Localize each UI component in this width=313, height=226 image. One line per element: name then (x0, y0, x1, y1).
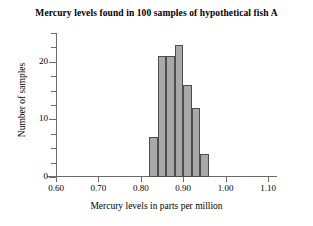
y-axis-tick (49, 119, 56, 120)
y-axis-tick (49, 62, 56, 63)
chart-title: Mercury levels found in 100 samples of h… (0, 8, 313, 18)
x-axis-tick (98, 177, 99, 182)
x-axis-tick-label: 0.70 (78, 183, 118, 193)
x-axis-tick (183, 177, 184, 182)
x-axis-tick (268, 177, 269, 182)
x-axis-tick-label: 1.10 (248, 183, 288, 193)
histogram-bar (183, 85, 191, 177)
x-axis-tick-label: 0.90 (163, 183, 203, 193)
x-axis-label: Mercury levels in parts per million (0, 201, 313, 211)
histogram-bars (56, 33, 268, 177)
y-axis-tick (49, 177, 56, 178)
y-axis-tick-label: 20 (20, 56, 48, 66)
x-axis-tick-label: 1.00 (206, 183, 246, 193)
y-axis-tick-label: 10 (20, 113, 48, 123)
x-axis-tick (226, 177, 227, 182)
x-axis-tick-label: 0.80 (121, 183, 161, 193)
x-axis-tick (56, 177, 57, 182)
histogram-bar (149, 137, 157, 177)
histogram-figure: Mercury levels found in 100 samples of h… (0, 0, 313, 226)
histogram-bar (175, 45, 183, 177)
x-axis-tick (141, 177, 142, 182)
y-axis-tick-label: 0 (20, 171, 48, 181)
histogram-bar (166, 56, 174, 177)
x-axis-tick-label: 0.60 (36, 183, 76, 193)
histogram-bar (200, 154, 208, 177)
histogram-bar (158, 56, 166, 177)
plot-area (56, 33, 268, 177)
histogram-bar (192, 108, 200, 177)
